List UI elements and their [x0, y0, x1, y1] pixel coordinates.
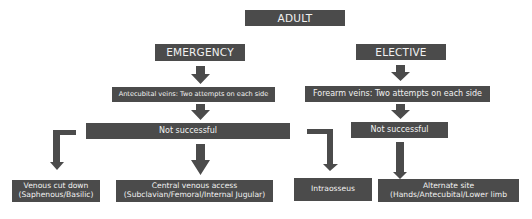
emergency-not-successful-node: Not successful	[86, 123, 290, 139]
antecubital-veins-label: Antecubital veins: Two attempts on each …	[119, 91, 269, 99]
down-arrow-icon	[191, 104, 210, 120]
bent-arrow-icon	[307, 129, 338, 171]
adult-label: ADULT	[278, 12, 313, 24]
venous-cut-down-line2: (Saphenous/Basilic)	[19, 191, 94, 200]
intraosseus-label: Intraosseus	[311, 185, 355, 194]
down-arrow-icon	[393, 142, 407, 179]
venous-cut-down-node: Venous cut down (Saphenous/Basilic)	[12, 180, 100, 202]
elective-not-successful-label: Not successful	[371, 125, 429, 134]
down-arrow-icon	[391, 65, 410, 81]
elective-node: ELECTIVE	[356, 44, 446, 60]
down-arrow-icon	[191, 66, 210, 84]
central-venous-access-line2: (Subclavian/Femoral/Internal Jugular)	[124, 191, 265, 200]
intraosseus-node: Intraosseus	[294, 178, 372, 201]
forearm-veins-node: Forearm veins: Two attempts on each side	[305, 86, 490, 102]
forearm-veins-label: Forearm veins: Two attempts on each side	[313, 89, 482, 98]
emergency-node: EMERGENCY	[155, 44, 245, 61]
down-arrow-icon	[391, 104, 410, 119]
central-venous-access-node: Central venous access (Subclavian/Femora…	[116, 180, 273, 202]
bent-arrow-icon	[50, 130, 76, 170]
emergency-not-successful-label: Not successful	[159, 126, 217, 135]
alternate-site-line2: (Hands/Antecubital/Lower limb	[390, 191, 507, 200]
alternate-site-node: Alternate site (Hands/Antecubital/Lower …	[378, 179, 519, 202]
emergency-label: EMERGENCY	[166, 46, 234, 58]
elective-label: ELECTIVE	[375, 46, 426, 58]
antecubital-veins-node: Antecubital veins: Two attempts on each …	[112, 87, 275, 102]
adult-node: ADULT	[245, 10, 345, 26]
down-arrow-icon	[191, 144, 210, 175]
elective-not-successful-node: Not successful	[351, 122, 448, 138]
